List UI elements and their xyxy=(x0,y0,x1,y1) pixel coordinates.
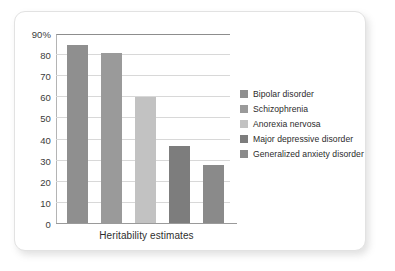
plot-area: 0102030405060708090% xyxy=(56,34,230,224)
y-axis-tick-label: 80 xyxy=(40,50,51,61)
bar xyxy=(101,53,122,224)
legend-item-label: Bipolar disorder xyxy=(253,89,314,99)
bar xyxy=(67,45,88,224)
legend-item: Schizophrenia xyxy=(240,101,366,116)
legend-swatch-icon xyxy=(240,135,248,143)
legend-item-label: Major depressive disorder xyxy=(253,134,353,144)
legend-item: Bipolar disorder xyxy=(240,86,366,101)
y-axis-tick-label: 0 xyxy=(46,219,51,230)
y-axis-tick-label: 90% xyxy=(32,29,51,40)
bar xyxy=(135,97,156,224)
legend-item-label: Generalized anxiety disorder xyxy=(253,149,364,159)
legend-item-label: Schizophrenia xyxy=(253,104,308,114)
bar xyxy=(169,146,190,224)
legend-item: Anorexia nervosa xyxy=(240,116,366,131)
y-axis-tick-label: 60 xyxy=(40,92,51,103)
bar xyxy=(203,165,224,224)
figure-card: 0102030405060708090% Heritability estima… xyxy=(14,11,366,251)
chart-legend: Bipolar disorderSchizophreniaAnorexia ne… xyxy=(240,86,366,162)
bar-chart: 0102030405060708090% Heritability estima… xyxy=(15,12,367,252)
legend-swatch-icon xyxy=(240,90,248,98)
legend-item: Generalized anxiety disorder xyxy=(240,147,366,162)
y-axis-tick-label: 40 xyxy=(40,134,51,145)
legend-swatch-icon xyxy=(240,150,248,158)
y-axis-tick-label: 10 xyxy=(40,197,51,208)
x-axis-line xyxy=(56,223,237,224)
y-axis-tick-label: 50 xyxy=(40,113,51,124)
y-axis-tick-label: 30 xyxy=(40,155,51,166)
y-axis-tick-label: 70 xyxy=(40,71,51,82)
y-axis-tick-label: 20 xyxy=(40,176,51,187)
legend-item-label: Anorexia nervosa xyxy=(253,119,321,129)
legend-item: Major depressive disorder xyxy=(240,132,366,147)
legend-swatch-icon xyxy=(240,120,248,128)
x-axis-title: Heritability estimates xyxy=(56,230,237,241)
legend-swatch-icon xyxy=(240,105,248,113)
